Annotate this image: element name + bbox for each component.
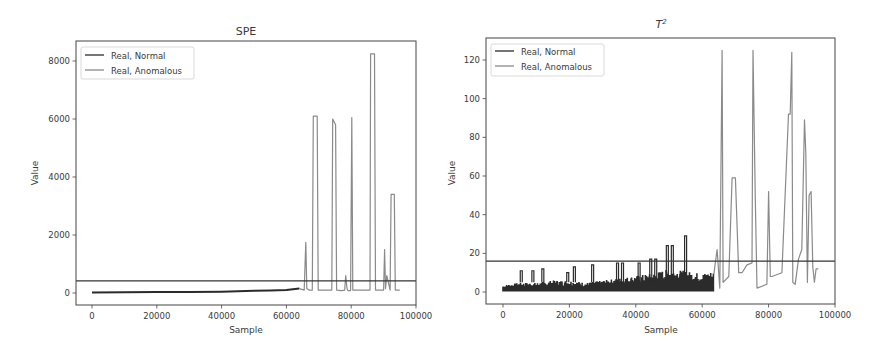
svg-text:100000: 100000 <box>400 311 432 321</box>
svg-text:120: 120 <box>464 55 480 65</box>
legend-label-normal: Real, Normal <box>521 47 575 57</box>
svg-text:80: 80 <box>469 132 480 142</box>
svg-text:100000: 100000 <box>819 310 851 320</box>
series-normal <box>503 270 713 292</box>
svg-text:100: 100 <box>464 94 480 104</box>
y-axis-ticks: 020406080100120 <box>464 55 486 297</box>
chart-title: T2 <box>655 18 667 31</box>
x-axis-label: Sample <box>229 325 263 335</box>
t2-chart: T2 Real, Normal Real, Anomalous 02000040… <box>437 0 874 349</box>
y-axis-label: Value <box>447 160 457 185</box>
y-axis-ticks: 02000400060008000 <box>48 56 76 298</box>
x-axis-label: Sample <box>644 325 678 335</box>
svg-text:20: 20 <box>469 248 480 258</box>
plot-area <box>76 54 416 293</box>
svg-text:40: 40 <box>469 210 480 220</box>
y-axis-label: Value <box>30 160 40 185</box>
svg-text:0: 0 <box>500 310 505 320</box>
svg-text:40000: 40000 <box>622 310 649 320</box>
legend: Real, Normal Real, Anomalous <box>491 44 604 76</box>
series-normal <box>92 289 299 293</box>
legend-label-anomalous: Real, Anomalous <box>111 66 183 76</box>
series-anomalous <box>299 54 399 291</box>
svg-text:80000: 80000 <box>755 310 782 320</box>
legend-label-anomalous: Real, Anomalous <box>521 62 593 72</box>
svg-text:0: 0 <box>475 287 480 297</box>
svg-text:80000: 80000 <box>338 311 365 321</box>
svg-text:4000: 4000 <box>48 172 70 182</box>
svg-text:8000: 8000 <box>48 56 70 66</box>
svg-text:2000: 2000 <box>48 230 70 240</box>
svg-text:20000: 20000 <box>143 311 170 321</box>
svg-text:40000: 40000 <box>208 311 235 321</box>
svg-text:60000: 60000 <box>689 310 716 320</box>
chart-title: SPE <box>236 25 257 38</box>
series-anomalous <box>714 50 819 288</box>
svg-text:0: 0 <box>65 288 70 298</box>
svg-text:60000: 60000 <box>273 311 300 321</box>
svg-text:6000: 6000 <box>48 114 70 124</box>
axes-frame <box>76 41 416 305</box>
x-axis-ticks: 020000400006000080000100000 <box>500 304 851 320</box>
svg-text:60: 60 <box>469 171 480 181</box>
legend-label-normal: Real, Normal <box>111 51 165 61</box>
svg-text:20000: 20000 <box>556 310 583 320</box>
spe-chart: SPE Real, Normal Real, Anomalous 0200004… <box>0 0 437 349</box>
x-axis-ticks: 020000400006000080000100000 <box>89 305 432 321</box>
legend: Real, Normal Real, Anomalous <box>81 47 194 79</box>
plot-area <box>486 50 835 291</box>
svg-text:0: 0 <box>89 311 94 321</box>
